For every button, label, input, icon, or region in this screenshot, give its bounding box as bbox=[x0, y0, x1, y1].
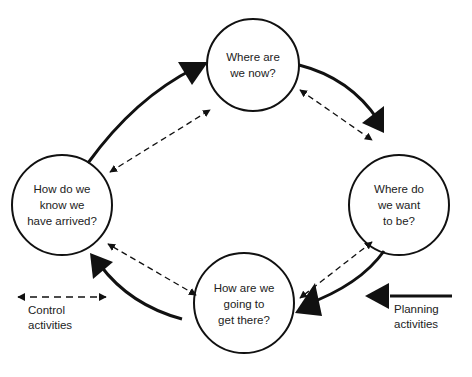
planning-arc-get-arrived bbox=[100, 265, 182, 319]
planning-arc-now-want bbox=[299, 65, 378, 120]
planning-legend-label: Planning activities bbox=[394, 302, 439, 332]
planning-arrowhead-want bbox=[362, 106, 384, 133]
planning-arrowhead-get bbox=[295, 283, 322, 316]
node-label-want: Where do we want to be? bbox=[349, 181, 449, 229]
control-legend-label: Control activities bbox=[28, 303, 72, 333]
node-label-get: How are we going to get there? bbox=[194, 280, 294, 328]
node-label-now: Where are we now? bbox=[207, 49, 299, 81]
planning-arc-arrived-now bbox=[88, 68, 195, 163]
node-label-arrived: How do we know we have arrived? bbox=[12, 181, 112, 229]
planning-legend-arrow-icon bbox=[365, 283, 389, 309]
